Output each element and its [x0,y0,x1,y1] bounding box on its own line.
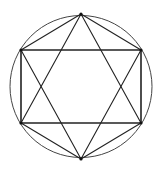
circumscribed-circle [10,16,152,158]
vertex-lower-left [19,121,22,124]
vertex-lower-right [139,121,142,124]
vertex-upper-left [19,48,22,51]
triangle-down [21,50,141,159]
hexagram-diagram [0,0,158,173]
vertex-top [79,12,82,15]
inner-rectangle [21,50,141,123]
vertex-upper-right [139,48,142,51]
triangle-up [21,14,141,123]
vertex-bottom [79,157,82,160]
hexagon [21,14,141,159]
